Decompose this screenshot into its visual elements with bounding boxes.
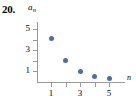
x-tick-label: 5 (103, 89, 115, 98)
y-tick (33, 71, 37, 72)
x-tick (80, 83, 81, 87)
x-tick (51, 83, 52, 87)
x-tick (95, 83, 96, 87)
figure-container: 20. an n 135 135 (0, 0, 136, 104)
data-point (49, 36, 54, 41)
y-tick-label: 5 (18, 24, 30, 33)
y-tick-label: 1 (18, 66, 30, 75)
y-tick (33, 50, 37, 51)
scatter-plot: 135 135 (0, 0, 136, 104)
y-tick (33, 40, 37, 41)
data-point (78, 69, 83, 74)
y-tick (33, 29, 37, 30)
data-point (63, 58, 68, 63)
y-axis-line (37, 22, 38, 83)
data-point (92, 74, 97, 79)
x-tick-label: 1 (45, 89, 57, 98)
x-tick (66, 83, 67, 87)
data-point (107, 76, 112, 81)
y-tick-label: 3 (18, 45, 30, 54)
x-tick (109, 83, 110, 87)
y-tick (33, 61, 37, 62)
x-tick-label: 3 (74, 89, 86, 98)
